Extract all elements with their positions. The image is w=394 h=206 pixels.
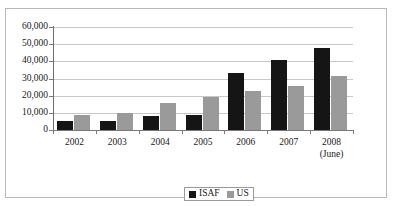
bar-isaf-2008 [314,48,330,130]
x-axis-tick [353,130,354,134]
legend-swatch-us [227,191,234,198]
y-axis-tick-label: 40,000 [22,57,48,67]
legend-label-us: US [237,189,249,199]
x-axis-tick [139,130,140,134]
bar-us-2005 [203,97,219,130]
bar-us-2002 [74,115,90,130]
gridline [53,130,353,131]
x-axis-label-text: 2002 [65,137,84,147]
bar-group [267,27,310,130]
legend-item-isaf: ISAF [189,189,220,199]
bar-isaf-2003 [100,121,116,130]
x-axis-label-2006: 2006 [224,136,267,148]
x-axis-tick [182,130,183,134]
bar-us-2003 [117,113,133,130]
bar-isaf-2007 [271,60,287,130]
x-axis-labels: 2002200320042005200620072008(June) [53,136,353,174]
chart-screenshot: 010,00020,00030,00040,00050,00060,000 20… [0,0,394,206]
bar-isaf-2006 [228,73,244,130]
x-axis-label-2003: 2003 [96,136,139,148]
bar-group [182,27,225,130]
bars-layer [53,27,353,130]
x-axis-label-2007: 2007 [267,136,310,148]
x-axis-tick [310,130,311,134]
figure-frame: 010,00020,00030,00040,00050,00060,000 20… [5,8,387,198]
x-axis-tick [53,130,54,134]
x-axis-sublabel-text: (June) [310,148,353,160]
y-axis-tick-label: 20,000 [22,91,48,101]
x-axis-tick [224,130,225,134]
x-axis-label-2002: 2002 [53,136,96,148]
bar-isaf-2004 [143,116,159,130]
y-axis-tick-label: 10,000 [22,108,48,118]
x-axis-label-text: 2007 [279,137,298,147]
legend-swatch-isaf [189,191,196,198]
bar-group [53,27,96,130]
legend-label-isaf: ISAF [199,189,220,199]
bar-group [224,27,267,130]
bar-us-2008 [331,76,347,130]
bar-group [96,27,139,130]
x-axis-label-text: 2008 [322,137,341,147]
y-axis-tick-label: 50,000 [22,39,48,49]
y-axis-tick-label: 30,000 [22,74,48,84]
chart-legend: ISAFUS [184,187,254,201]
legend-item-us: US [227,189,249,199]
bar-isaf-2002 [57,121,73,130]
x-axis-label-text: 2003 [108,137,127,147]
x-axis-label-text: 2004 [151,137,170,147]
x-axis-label-2005: 2005 [182,136,225,148]
x-axis-label-2008: 2008(June) [310,136,353,160]
bar-us-2007 [288,86,304,130]
bar-group [139,27,182,130]
bar-group [310,27,353,130]
y-axis-tick-label: 60,000 [22,22,48,32]
bar-us-2006 [245,91,261,130]
bar-isaf-2005 [186,115,202,130]
x-axis-label-text: 2005 [193,137,212,147]
x-axis-label-2004: 2004 [139,136,182,148]
x-axis-tick [267,130,268,134]
bar-us-2004 [160,103,176,130]
x-axis-label-text: 2006 [236,137,255,147]
x-axis-tick [96,130,97,134]
y-axis-tick-label: 0 [43,125,48,135]
